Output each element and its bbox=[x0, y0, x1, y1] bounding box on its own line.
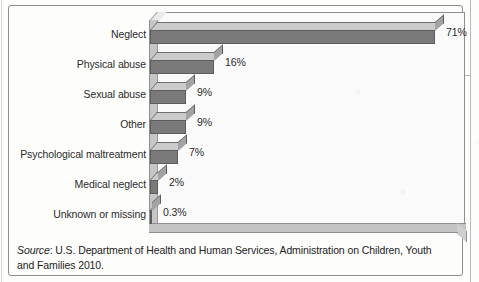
bar-value-label: 0.3% bbox=[163, 206, 187, 218]
bar-front-face bbox=[150, 30, 435, 44]
bar-top-face bbox=[150, 22, 442, 30]
category-label-physical-abuse: Physical abuse bbox=[10, 58, 146, 70]
source-body: : U.S. Department of Health and Human Se… bbox=[17, 244, 431, 271]
bar-front-face bbox=[150, 120, 186, 134]
category-label-other: Other bbox=[10, 118, 146, 130]
plot-floor-front-edge bbox=[149, 232, 458, 233]
bar-chart: Neglect Physical abuse Sexual abuse Othe… bbox=[8, 6, 463, 238]
bar-value-label: 71% bbox=[446, 26, 467, 38]
source-label: Source bbox=[17, 244, 50, 256]
bar-front-face bbox=[150, 210, 152, 224]
bar-front-face bbox=[150, 90, 186, 104]
bar-front-face bbox=[150, 60, 214, 74]
category-label-medical-neglect: Medical neglect bbox=[10, 178, 146, 190]
category-label-neglect: Neglect bbox=[10, 28, 146, 40]
bar-value-label: 16% bbox=[225, 56, 246, 68]
figure-container: Neglect Physical abuse Sexual abuse Othe… bbox=[0, 0, 479, 282]
category-label-sexual-abuse: Sexual abuse bbox=[10, 88, 146, 100]
bar-top-face bbox=[150, 52, 221, 60]
bar-value-label: 9% bbox=[197, 86, 212, 98]
category-label-psychological-maltreatment: Psychological maltreatment bbox=[10, 148, 146, 160]
category-label-unknown-or-missing: Unknown or missing bbox=[10, 208, 146, 220]
category-axis-labels: Neglect Physical abuse Sexual abuse Othe… bbox=[8, 12, 146, 238]
page-edge-left-line bbox=[1, 0, 2, 282]
page-edge-right-line bbox=[470, 0, 471, 282]
bar-value-label: 9% bbox=[197, 116, 212, 128]
plot-area: 71% 16% 9% 9% bbox=[148, 12, 466, 238]
bar-front-face bbox=[150, 180, 158, 194]
bar-value-label: 7% bbox=[189, 146, 204, 158]
source-caption: Source: U.S. Department of Health and Hu… bbox=[17, 243, 447, 273]
bar-front-face bbox=[150, 150, 178, 164]
bar-value-label: 2% bbox=[169, 176, 184, 188]
